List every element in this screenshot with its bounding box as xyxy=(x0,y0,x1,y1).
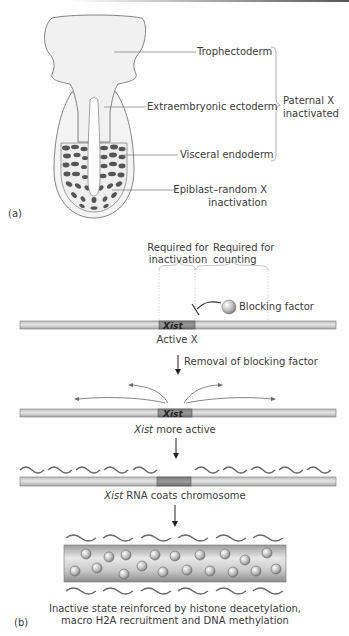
arrow-down-2 xyxy=(173,438,179,459)
spreading-arrows xyxy=(78,385,272,403)
arrow-down-1 xyxy=(175,355,181,375)
label-epiblast-line1: Epiblast–random X xyxy=(173,184,267,196)
caption-inactive-state-line2: macro H2A recruitment and DNA methylatio… xyxy=(40,615,310,627)
region-guides xyxy=(159,270,268,321)
caption-xist-italic: Xist xyxy=(134,424,153,435)
caption-xist-italic: Xist xyxy=(104,490,123,501)
caption-xist-rest: more active xyxy=(153,424,216,435)
caption-xist-rna-coats: Xist RNA coats chromosome xyxy=(80,490,270,502)
xist-rna-coating xyxy=(20,467,331,473)
rna-coating-bottom xyxy=(66,588,283,594)
inhibition-bar xyxy=(192,304,199,315)
label-extraembryonic-ectoderm: Extraembryonic ectoderm xyxy=(147,101,277,113)
caption-active-x: Active X xyxy=(137,334,217,346)
label-visceral-endoderm: Visceral endoderm xyxy=(180,149,274,161)
inhibition-line xyxy=(197,302,221,309)
panel-b-label: (b) xyxy=(14,617,28,629)
chromosome-rna-coated xyxy=(20,477,336,486)
label-trophectoderm: Trophectoderm xyxy=(197,46,272,58)
arrow-down-3 xyxy=(172,505,178,527)
label-epiblast-line2: inactivation xyxy=(208,197,267,209)
caption-xist-rest: RNA coats chromosome xyxy=(123,490,246,501)
label-paternal-x-line1: Paternal X xyxy=(283,95,334,107)
label-blocking-factor: Blocking factor xyxy=(239,301,314,313)
label-required-inactivation-line1: Required for xyxy=(138,242,218,254)
label-removal-blocking-factor: Removal of blocking factor xyxy=(184,356,318,368)
label-required-counting-line2: counting xyxy=(213,254,257,266)
label-xist-gene: Xist xyxy=(163,320,183,332)
label-paternal-x-line2: inactivated xyxy=(283,108,339,120)
label-xist-gene-2: Xist xyxy=(163,408,183,420)
embryo-illustration xyxy=(45,15,146,218)
blocking-factor-icon xyxy=(222,300,236,314)
label-required-inactivation-line2: inactivation xyxy=(138,254,218,266)
caption-xist-more-active: Xist more active xyxy=(100,424,250,436)
label-required-counting-line1: Required for xyxy=(213,242,274,254)
panel-a-label: (a) xyxy=(8,208,22,220)
caption-inactive-state-line1: Inactive state reinforced by histone dea… xyxy=(40,603,310,615)
rna-coating-top xyxy=(66,535,283,541)
